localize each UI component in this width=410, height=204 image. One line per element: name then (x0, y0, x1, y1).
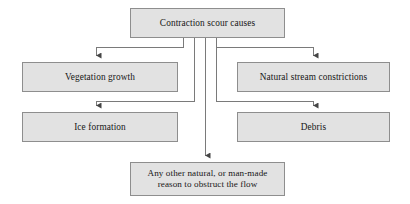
node-debris[interactable]: Debris (237, 112, 390, 142)
edge-root-to-vegetation-growth (97, 38, 184, 56)
node-vegetation-growth[interactable]: Vegetation growth (22, 62, 178, 92)
node-any-other-natural-or-man-made-reason[interactable]: Any other natural, or man-made reason to… (130, 162, 285, 196)
node-label: Debris (297, 121, 330, 133)
node-label: Contraction scour causes (156, 17, 259, 29)
node-label: Any other natural, or man-made reason to… (144, 168, 272, 191)
node-ice-formation[interactable]: Ice formation (22, 112, 178, 142)
node-natural-stream-constrictions[interactable]: Natural stream constrictions (237, 62, 390, 92)
flowchart-diagram: Contraction scour causes Vegetation grow… (0, 0, 410, 204)
node-label: Ice formation (70, 121, 130, 133)
edge-root-to-natural-stream-constrictions (216, 38, 314, 56)
node-label: Natural stream constrictions (256, 71, 372, 83)
node-contraction-scour-causes[interactable]: Contraction scour causes (130, 8, 285, 38)
node-label: Vegetation growth (61, 71, 139, 83)
